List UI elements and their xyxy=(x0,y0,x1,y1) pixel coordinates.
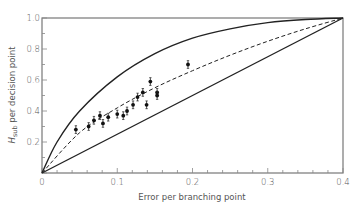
y-tick-labels: 0.20.40.60.81.0 xyxy=(26,13,40,147)
y-tick-label: 0.8 xyxy=(26,44,40,54)
data-point xyxy=(92,116,96,124)
data-point xyxy=(148,78,152,86)
y-tick-label: 1.0 xyxy=(26,13,40,23)
data-point xyxy=(186,61,190,69)
x-tick-label: 0.4 xyxy=(336,177,350,187)
y-axis-title: Hsub per decision point xyxy=(7,46,19,144)
solid-curve xyxy=(42,18,343,173)
data-point xyxy=(125,107,129,115)
data-point xyxy=(101,120,105,128)
data-point xyxy=(87,123,91,131)
curves xyxy=(42,18,343,173)
x-axis-title: Error per branching point xyxy=(138,192,246,202)
data-point xyxy=(141,89,145,97)
y-tick-label: 0.6 xyxy=(26,75,40,85)
x-tick-label: 0 xyxy=(39,177,44,187)
chart: 00.10.20.30.4 0.20.40.60.81.0 Error per … xyxy=(0,0,359,207)
x-tick-label: 0.2 xyxy=(186,177,200,187)
data-point xyxy=(74,126,78,134)
x-tick-label: 0.3 xyxy=(261,177,275,187)
data-point xyxy=(131,101,135,109)
data-point xyxy=(121,112,125,120)
data-point xyxy=(136,93,140,101)
y-tick-label: 0.4 xyxy=(26,106,40,116)
y-tick-label: 0.2 xyxy=(26,137,40,147)
x-tick-label: 0.1 xyxy=(110,177,124,187)
x-tick-labels: 00.10.20.30.4 xyxy=(39,177,349,187)
data-point xyxy=(145,101,149,109)
data-point xyxy=(115,110,119,118)
data-points xyxy=(74,61,190,134)
